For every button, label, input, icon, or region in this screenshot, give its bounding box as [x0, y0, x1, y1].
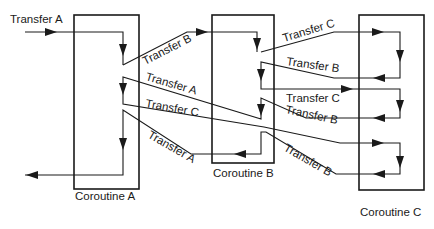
transfer-label: Transfer B [140, 32, 193, 67]
arrow-down-icon [257, 69, 265, 81]
arrow-right-icon [45, 28, 57, 36]
arrow-down-icon [119, 44, 127, 56]
arrow-left-icon [26, 171, 38, 179]
transfer-label: Transfer B [282, 141, 334, 178]
transfer-label: Transfer C [145, 97, 200, 118]
transfer-label: Transfer C [286, 92, 340, 104]
transfer-label: Transfer B [285, 103, 340, 126]
transfer-label: Transfer C [281, 17, 336, 44]
arrow-down-icon [396, 156, 404, 168]
coroutine-b-label: Coroutine B [213, 167, 274, 179]
transfer-label: Transfer A [146, 128, 198, 165]
coroutine-transfer-diagram: Coroutine A Coroutine B Coroutine C Tran… [0, 0, 434, 229]
arrow-right-icon [372, 28, 384, 36]
flow-b-to-a-2 [25, 110, 237, 179]
transfer-label: Transfer B [286, 55, 341, 74]
arrow-right-icon [372, 139, 384, 147]
coroutine-c-box [359, 15, 424, 190]
arrow-down-icon [396, 50, 404, 62]
arrow-right-icon [196, 28, 208, 36]
arrow-down-icon [119, 138, 127, 150]
arrow-down-icon [257, 104, 265, 116]
arrow-down-icon [396, 100, 404, 112]
arrow-down-icon [119, 83, 127, 95]
entry-transfer-label: Transfer A [10, 13, 63, 25]
coroutine-a-label: Coroutine A [75, 190, 135, 202]
entry-flow [25, 28, 127, 65]
transfer-label: Transfer A [144, 70, 198, 96]
arrow-right-icon [341, 85, 353, 93]
arrow-down-icon [253, 38, 261, 50]
coroutine-c-label: Coroutine C [360, 206, 421, 218]
coroutine-a-box [74, 15, 139, 189]
